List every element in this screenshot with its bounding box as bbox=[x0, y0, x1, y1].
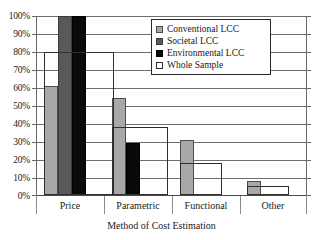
x-tick-label-parametric: Parametric bbox=[104, 198, 172, 214]
y-tick-label-90: 90% bbox=[0, 29, 30, 39]
x-tick-label-functional: Functional bbox=[172, 198, 240, 214]
y-tick-right-40 bbox=[307, 124, 311, 125]
x-axis-title: Method of Cost Estimation bbox=[0, 220, 323, 232]
y-tick-label-60: 60% bbox=[0, 83, 30, 93]
x-category-separator-4 bbox=[306, 196, 307, 214]
bar-group-price bbox=[36, 16, 104, 196]
bar-functional-whole bbox=[180, 163, 222, 195]
y-tick-right-70 bbox=[307, 70, 311, 71]
y-tick-right-30 bbox=[307, 142, 311, 143]
legend-item-societal-lcc: Societal LCC bbox=[156, 35, 266, 47]
legend-label-whole-sample: Whole Sample bbox=[167, 60, 223, 71]
bar-chart: 100% 90% 80% 70% 60% 50% 40% 30% 20% 10%… bbox=[0, 0, 323, 240]
y-tick-label-70: 70% bbox=[0, 65, 30, 75]
y-tick-right-50 bbox=[307, 106, 311, 107]
legend-swatch-environmental-lcc bbox=[156, 50, 163, 57]
y-tick-right-20 bbox=[307, 160, 311, 161]
legend-label-conventional-lcc: Conventional LCC bbox=[167, 24, 239, 35]
legend-swatch-whole-sample bbox=[156, 62, 163, 69]
y-tick-label-50: 50% bbox=[0, 101, 30, 111]
y-tick-label-100: 100% bbox=[0, 11, 30, 21]
legend-item-environmental-lcc: Environmental LCC bbox=[156, 47, 266, 59]
legend-swatch-conventional-lcc bbox=[156, 26, 163, 33]
chart-legend: Conventional LCC Societal LCC Environmen… bbox=[151, 19, 271, 75]
legend-swatch-societal-lcc bbox=[156, 38, 163, 45]
legend-label-environmental-lcc: Environmental LCC bbox=[167, 48, 244, 59]
y-tick-label-30: 30% bbox=[0, 137, 30, 147]
bar-other-whole bbox=[247, 186, 289, 195]
y-tick-label-40: 40% bbox=[0, 119, 30, 129]
y-tick-right-0 bbox=[307, 195, 311, 196]
y-tick-right-100 bbox=[307, 16, 311, 17]
legend-item-conventional-lcc: Conventional LCC bbox=[156, 23, 266, 35]
y-tick-label-20: 20% bbox=[0, 155, 30, 165]
legend-label-societal-lcc: Societal LCC bbox=[167, 36, 218, 47]
y-tick-right-80 bbox=[307, 52, 311, 53]
bar-parametric-whole bbox=[112, 127, 168, 195]
x-tick-label-price: Price bbox=[36, 198, 104, 214]
y-tick-label-80: 80% bbox=[0, 47, 30, 57]
y-tick-label-10: 10% bbox=[0, 173, 30, 183]
y-tick-label-0: 0% bbox=[0, 191, 30, 201]
x-tick-label-other: Other bbox=[240, 198, 306, 214]
bar-price-whole bbox=[44, 52, 114, 195]
y-tick-right-60 bbox=[307, 88, 311, 89]
y-tick-right-10 bbox=[307, 178, 311, 179]
legend-item-whole-sample: Whole Sample bbox=[156, 59, 266, 71]
y-tick-right-90 bbox=[307, 34, 311, 35]
